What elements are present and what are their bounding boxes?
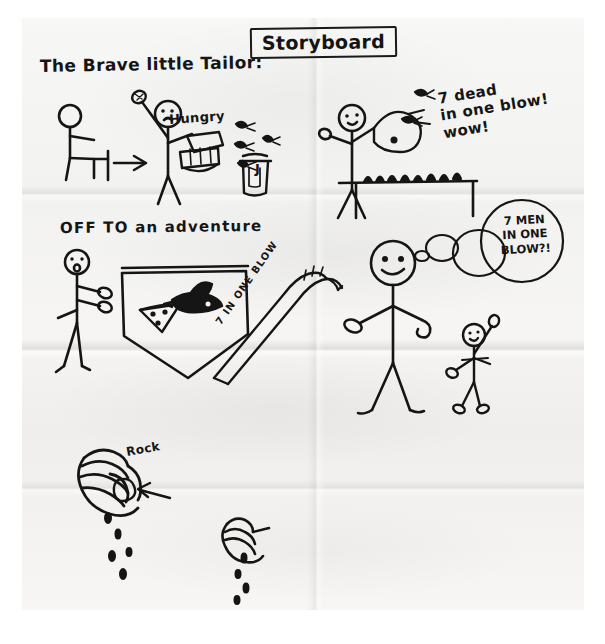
panel3-big-tailor [342,241,430,414]
jam-jar-letter: J [255,161,260,176]
panel3-bird [164,282,222,312]
panel2-caption-arrow [402,90,435,126]
panel2-table [339,181,477,218]
caption-off-to-an-adventure: OFF TO an adventure [60,217,263,237]
storyboard-title-text: Storyboard [262,30,385,54]
panel4-drips-2 [235,554,249,605]
panel3-small-figure [445,314,501,415]
panel1-arrow [114,156,146,170]
panel3-sash-banner [214,266,342,384]
panel1-seated-figure [59,105,108,180]
panel3-tailor-figure [56,250,113,372]
story-title: The Brave little Tailor: [40,52,263,76]
panel2-swatter [374,110,430,152]
storyboard-title-box: Storyboard [250,26,397,59]
panel4-rock-arrow [138,483,170,498]
panel3-pizza-slice [140,304,180,332]
panel2-tailor-figure [318,105,374,218]
panel1-sandwich [180,132,223,171]
paper-sheet: Storyboard The Brave little Tailor: Hung… [22,18,584,610]
panel4-drips-1 [105,513,132,579]
scanned-storyboard-image: Storyboard The Brave little Tailor: Hung… [0,0,605,644]
panel1-fly-swatter [130,89,150,113]
thought-bubble-text: 7 MEN IN ONE BLOW?! [481,211,569,259]
